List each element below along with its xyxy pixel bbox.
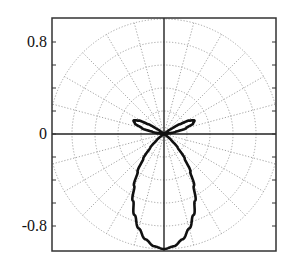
grid-radial-line bbox=[134, 23, 164, 134]
grid-radial-line bbox=[164, 53, 245, 134]
grid-radial-line bbox=[53, 134, 164, 164]
grid-radial-line bbox=[164, 134, 275, 164]
grid-radial-line bbox=[64, 134, 164, 192]
polar-plot: 0.80-0.8 bbox=[0, 0, 291, 261]
grid-radial-line bbox=[164, 23, 194, 134]
y-tick-label: 0 bbox=[39, 125, 47, 142]
y-tick-label: 0.8 bbox=[27, 33, 47, 50]
y-tick-labels: 0.80-0.8 bbox=[22, 33, 47, 234]
y-tick-label: -0.8 bbox=[22, 217, 47, 234]
grid-radial-line bbox=[164, 134, 264, 192]
grid-radial-line bbox=[83, 53, 164, 134]
